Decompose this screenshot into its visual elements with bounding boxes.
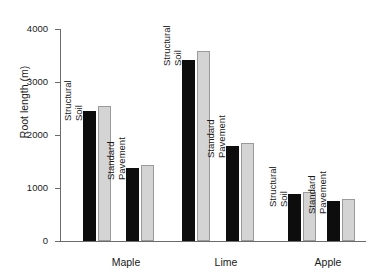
bar-black <box>182 60 195 241</box>
bar-black <box>288 194 301 241</box>
y-axis-tick-label: 1000 <box>0 182 48 193</box>
treatment-label: StandardPavement <box>307 171 328 214</box>
bar-black <box>83 111 96 241</box>
bar-black <box>126 168 139 241</box>
treatment-label-line: Pavement <box>318 171 329 214</box>
plot-area: StructuralSoilStandardPavementStructural… <box>60 29 366 241</box>
treatment-label: StructuralSoil <box>63 80 84 121</box>
treatment-label: StructuralSoil <box>268 166 289 207</box>
category-label-lime: Lime <box>215 256 238 268</box>
treatment-label: StandardPavement <box>106 137 127 180</box>
category-label-apple: Apple <box>315 256 342 268</box>
treatment-label: StandardPavement <box>206 116 227 159</box>
bar-gray <box>342 199 355 241</box>
treatment-label: StructuralSoil <box>162 26 183 67</box>
bar-black <box>226 146 239 241</box>
treatment-label-line: Standard <box>106 137 117 180</box>
treatment-label-line: Soil <box>173 26 184 67</box>
treatment-label-line: Structural <box>162 26 173 67</box>
treatment-label-line: Pavement <box>217 116 228 159</box>
x-axis-line <box>60 241 366 242</box>
bar-gray <box>141 165 154 241</box>
treatment-label-line: Soil <box>74 80 85 121</box>
bar-black <box>327 201 340 241</box>
y-axis-tick-label: 3000 <box>0 76 48 87</box>
treatment-label-line: Standard <box>307 171 318 214</box>
category-label-maple: Maple <box>112 256 141 268</box>
treatment-label-line: Structural <box>268 166 279 207</box>
y-axis-title: Root length (m) <box>18 32 30 172</box>
bar-gray <box>241 143 254 241</box>
treatment-label-line: Standard <box>206 116 217 159</box>
y-axis-tick-label: 4000 <box>0 23 48 34</box>
treatment-label-line: Soil <box>279 166 290 207</box>
y-axis-tick-label: 0 <box>0 235 48 246</box>
y-axis-tick-label: 2000 <box>0 129 48 140</box>
treatment-label-line: Structural <box>63 80 74 121</box>
bar-chart: Root length (m) 01000200030004000 Struct… <box>0 0 372 275</box>
treatment-label-line: Pavement <box>117 137 128 180</box>
